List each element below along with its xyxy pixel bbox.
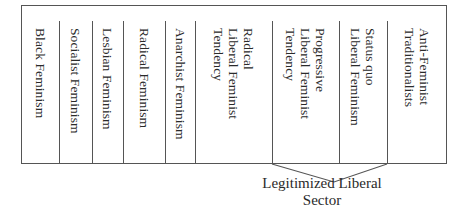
bracket-label-line2: Sector	[242, 192, 402, 209]
bracket-label-line1: Legitimized Liberal	[242, 175, 402, 192]
legitimized-liberal-sector-label: Legitimized Liberal Sector	[242, 175, 402, 209]
